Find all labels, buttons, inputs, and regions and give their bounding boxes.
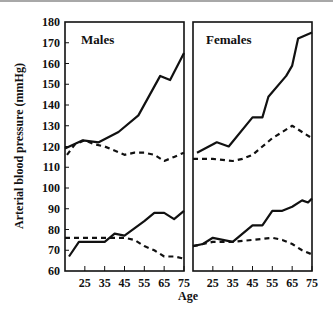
y-axis: 60708090100110120130140150160170180 bbox=[42, 15, 60, 278]
dashed-series-line bbox=[67, 140, 184, 161]
dashed-series-line bbox=[193, 126, 312, 161]
solid-series-line bbox=[193, 198, 312, 246]
solid-series-line bbox=[69, 211, 184, 257]
solid-series-line bbox=[65, 53, 184, 149]
y-tick-label: 70 bbox=[48, 243, 60, 257]
males-panel: Males 253545556575 bbox=[65, 22, 190, 290]
y-tick-label: 180 bbox=[42, 15, 60, 29]
x-tick-label: 45 bbox=[119, 276, 131, 290]
solid-series-line bbox=[197, 32, 312, 152]
females-panel-title: Females bbox=[206, 32, 251, 47]
y-tick-label: 60 bbox=[48, 264, 60, 278]
x-tick-label: 55 bbox=[138, 276, 150, 290]
x-tick-label: 65 bbox=[286, 276, 298, 290]
x-axis-label: Age bbox=[178, 289, 199, 303]
y-tick-label: 110 bbox=[43, 160, 60, 174]
x-tick-label: 75 bbox=[178, 276, 190, 290]
x-tick-label: 75 bbox=[306, 276, 318, 290]
y-tick-label: 100 bbox=[42, 181, 60, 195]
x-tick-label: 35 bbox=[99, 276, 111, 290]
y-tick-label: 90 bbox=[48, 202, 60, 216]
x-tick-label: 65 bbox=[158, 276, 170, 290]
y-tick-label: 150 bbox=[42, 77, 60, 91]
y-tick-label: 160 bbox=[42, 57, 60, 71]
y-tick-label: 140 bbox=[42, 98, 60, 112]
x-tick-label: 55 bbox=[266, 276, 278, 290]
y-tick-label: 80 bbox=[48, 223, 60, 237]
x-tick-label: 35 bbox=[227, 276, 239, 290]
y-tick-label: 170 bbox=[42, 36, 60, 50]
males-panel-title: Males bbox=[81, 32, 114, 47]
y-axis-label: Arterial blood pressure (mmHg) bbox=[12, 63, 26, 229]
blood-pressure-chart: 60708090100110120130140150160170180 Arte… bbox=[0, 0, 333, 317]
females-panel: Females 253545556575 bbox=[193, 22, 318, 290]
panel-frame bbox=[65, 22, 184, 271]
y-tick-label: 120 bbox=[42, 140, 60, 154]
y-tick-label: 130 bbox=[42, 119, 60, 133]
x-tick-label: 25 bbox=[79, 276, 91, 290]
x-tick-label: 45 bbox=[247, 276, 259, 290]
x-tick-label: 25 bbox=[207, 276, 219, 290]
